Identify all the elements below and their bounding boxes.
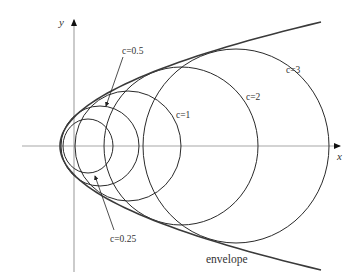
y-axis-label: y <box>58 16 64 28</box>
x-axis-label: x <box>336 150 342 162</box>
label-envelope: envelope <box>206 253 248 266</box>
c05-pointer-arrow <box>106 57 123 106</box>
envelope-diagram: y x c=0.5 c=0.25 c=1 c=2 c=3 envelope <box>0 0 361 280</box>
label-c05: c=0.5 <box>122 46 144 56</box>
label-c2: c=2 <box>246 92 261 102</box>
label-c3: c=3 <box>286 65 301 75</box>
label-c025: c=0.25 <box>110 234 136 244</box>
label-c1: c=1 <box>176 110 191 120</box>
